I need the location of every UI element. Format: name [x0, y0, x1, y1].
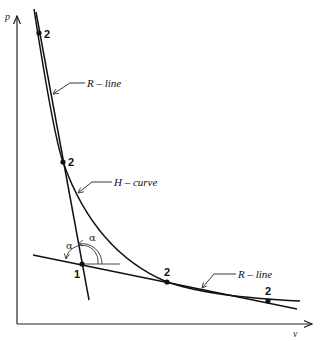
- point-1: [79, 261, 84, 266]
- r-line-upper-label: R – line: [86, 77, 121, 89]
- angle-alpha-left: α: [66, 240, 73, 251]
- callout-r-line-lower: R – line: [202, 268, 272, 288]
- point-2-mid: [60, 159, 65, 164]
- point-2-top-label: 2: [44, 28, 50, 40]
- point-2-lower-label: 2: [164, 266, 170, 278]
- angle-alpha-right: α: [89, 232, 96, 243]
- y-axis-label: p: [4, 11, 10, 22]
- point-1-label: 1: [74, 268, 80, 280]
- point-2-right-label: 2: [265, 285, 271, 297]
- point-2-right: [265, 298, 270, 303]
- h-curve-label: H – curve: [113, 176, 157, 188]
- point-2-top: [36, 30, 41, 35]
- r-line-lower-label: R – line: [237, 268, 272, 280]
- point-2-mid-label: 2: [68, 156, 74, 168]
- hugoniot-diagram: p v α α 2 2 1 2 2 R – line H – curve R –…: [0, 0, 323, 341]
- callout-r-line-upper: R – line: [53, 77, 121, 94]
- point-2-lower: [164, 279, 169, 284]
- x-axis-label: v: [293, 328, 298, 339]
- callout-h-curve: H – curve: [78, 176, 157, 193]
- h-curve: [34, 9, 300, 301]
